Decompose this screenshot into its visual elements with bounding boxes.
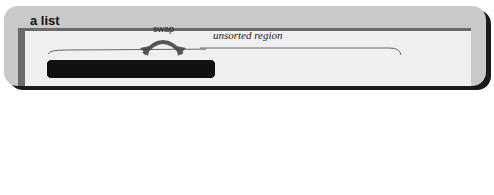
unsorted-region-brace xyxy=(46,42,206,56)
list-title: a list xyxy=(30,13,60,28)
array-bar-bg-shadow xyxy=(47,61,214,78)
unsorted-region-brace-right xyxy=(200,40,405,56)
